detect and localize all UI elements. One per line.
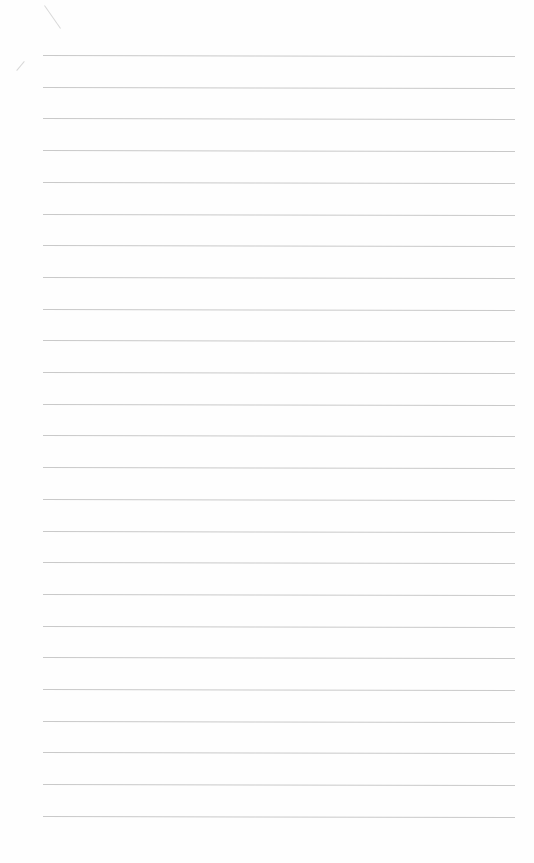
ruled-line	[43, 435, 515, 437]
ruled-line	[43, 467, 515, 469]
pencil-mark	[16, 61, 24, 71]
lined-paper-page	[0, 0, 534, 863]
ruled-line	[43, 309, 515, 311]
ruled-line	[43, 214, 515, 216]
ruled-line	[43, 150, 515, 152]
ruled-line	[43, 182, 515, 184]
ruled-line	[43, 562, 515, 564]
ruled-line	[43, 752, 515, 754]
ruled-line	[43, 721, 515, 723]
ruled-line	[43, 404, 515, 406]
ruled-line	[43, 87, 515, 89]
ruled-line	[43, 245, 515, 247]
ruled-line	[43, 277, 515, 279]
ruled-line	[43, 118, 515, 120]
pencil-mark	[44, 5, 61, 29]
ruled-line	[43, 55, 515, 57]
ruled-line	[43, 816, 515, 818]
ruled-line	[43, 626, 515, 628]
ruled-line	[43, 657, 515, 659]
ruled-line	[43, 499, 515, 501]
ruled-line	[43, 784, 515, 786]
ruled-line	[43, 340, 515, 342]
ruled-line	[43, 531, 515, 533]
ruled-line	[43, 594, 515, 596]
ruled-line	[43, 689, 515, 691]
ruled-line	[43, 372, 515, 374]
